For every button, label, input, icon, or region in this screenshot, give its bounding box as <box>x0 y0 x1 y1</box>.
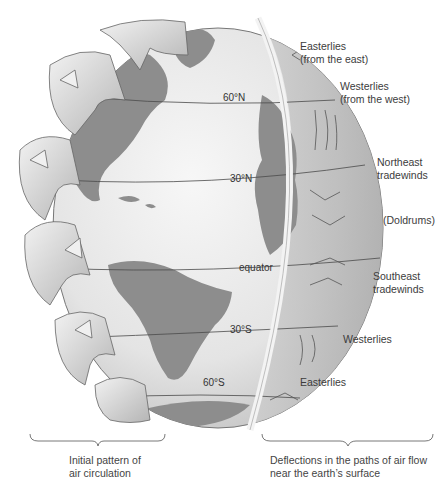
caption-braces <box>0 0 448 485</box>
atmospheric-circulation-diagram: 60°N 30°N equator 30°S 60°S Easterlies (… <box>0 0 448 485</box>
left-brace <box>30 434 165 446</box>
right-caption: Deflections in the paths of air flow nea… <box>270 454 427 480</box>
left-caption: Initial pattern of air circulation <box>69 454 141 480</box>
right-brace <box>262 434 433 446</box>
